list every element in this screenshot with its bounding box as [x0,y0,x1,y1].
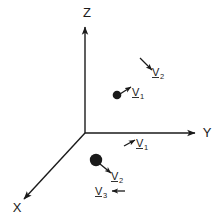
vector-label-v3-lower: V [95,185,103,197]
diagram-canvas: Z Y X V 1 V 2 V 1 V 2 V 3 [0,0,219,218]
vector-label-v2-lower: V [111,170,119,182]
axis-x-line [24,133,85,199]
vector-subscript-v2-upper-right: 2 [160,72,164,81]
vector-subscript-v1-y-axis: 1 [144,143,148,152]
vector-subscript-v2-lower: 2 [119,176,123,185]
vector-subscript-v3-lower: 3 [103,191,107,200]
vector-arrow-v1-y-axis [124,140,135,146]
vector-arrow-v1-upper [120,87,131,94]
axis-label-x: X [13,200,22,215]
vector-diagram: Z Y X V 1 V 2 V 1 V 2 V 3 [0,0,219,218]
vector-label-v2-upper-right: V [152,66,160,78]
vector-arrow-v2-lower [100,164,111,173]
axis-label-z: Z [83,5,91,20]
upper-particle [113,91,122,100]
axis-label-y: Y [203,125,212,140]
vector-subscript-v1-upper: 1 [140,92,144,101]
vector-label-v1-y-axis: V [136,137,144,149]
vector-arrow-v2-upper-right [140,58,152,70]
axis-x [24,133,85,199]
vector-label-v1-upper: V [132,86,140,98]
